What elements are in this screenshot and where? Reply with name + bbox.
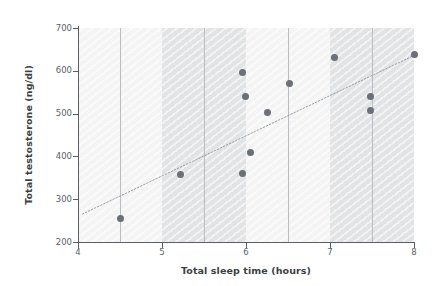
data-point xyxy=(367,93,374,100)
y-tick-label: 300 xyxy=(48,195,72,204)
x-tick-label-text: 7 xyxy=(320,247,340,257)
y-tick-mark xyxy=(73,199,78,200)
y-tick-mark xyxy=(73,28,78,29)
x-tick-label: 8 xyxy=(404,247,424,257)
x-tick-label-text: 5 xyxy=(152,247,172,257)
y-tick-label: 400 xyxy=(48,152,72,161)
x-tick-label-text: 6 xyxy=(236,247,256,257)
data-point xyxy=(177,171,184,178)
y-axis-spine xyxy=(78,26,79,244)
y-tick-label-text: 600 xyxy=(48,66,72,75)
trendline xyxy=(78,28,414,242)
x-tick-label: 5 xyxy=(152,247,172,257)
data-point xyxy=(117,215,124,222)
x-tick-label: 7 xyxy=(320,247,340,257)
y-tick-mark xyxy=(73,71,78,72)
data-point xyxy=(264,109,271,116)
y-tick-label-text: 200 xyxy=(48,238,72,247)
data-point xyxy=(331,54,338,61)
x-axis-title: Total sleep time (hours) xyxy=(78,265,414,276)
y-tick-label: 200 xyxy=(48,238,72,247)
y-tick-label-text: 700 xyxy=(48,24,72,33)
data-point xyxy=(247,149,254,156)
scatter-chart-figure: 200300400500600700 45678 Total testoster… xyxy=(0,0,447,286)
data-point xyxy=(367,107,374,114)
x-tick-label-text: 4 xyxy=(68,247,88,257)
y-axis-title: Total testosterone (ng/dl) xyxy=(22,28,36,242)
y-tick-label: 700 xyxy=(48,24,72,33)
x-tick-label: 4 xyxy=(68,247,88,257)
trendline-segment xyxy=(82,55,414,214)
data-point xyxy=(242,93,249,100)
y-tick-label: 600 xyxy=(48,66,72,75)
y-tick-label-text: 400 xyxy=(48,152,72,161)
y-tick-mark xyxy=(73,114,78,115)
data-point xyxy=(411,51,418,58)
y-tick-label: 500 xyxy=(48,109,72,118)
x-tick-label: 6 xyxy=(236,247,256,257)
x-tick-label-text: 8 xyxy=(404,247,424,257)
y-tick-mark xyxy=(73,156,78,157)
y-tick-label-text: 500 xyxy=(48,109,72,118)
plot-area xyxy=(78,28,414,242)
y-tick-label-text: 300 xyxy=(48,195,72,204)
